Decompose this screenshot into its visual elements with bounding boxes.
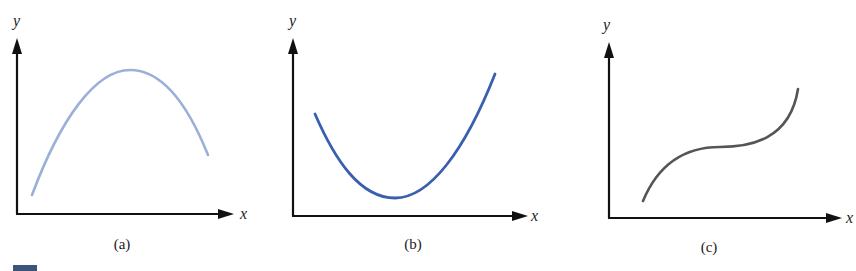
y-axis-arrow-icon <box>12 38 22 54</box>
panel-c: x y (c) <box>601 16 853 256</box>
y-axis-arrow-icon <box>288 38 298 54</box>
x-axis-label: x <box>845 209 853 226</box>
x-axis-arrow-icon <box>512 211 528 221</box>
y-axis-label: y <box>601 16 611 34</box>
x-axis-arrow-icon <box>826 213 842 223</box>
curve-inflection <box>643 89 798 201</box>
x-axis-arrow-icon <box>218 209 234 219</box>
caption-b: (b) <box>404 236 422 253</box>
curve-maximum <box>32 70 208 195</box>
caption-a: (a) <box>114 236 131 253</box>
curve-minimum <box>315 74 495 198</box>
y-axis-label: y <box>287 12 297 30</box>
panel-a: x y (a) <box>11 12 247 253</box>
figure: x y (a) x y (b) x y (c) <box>0 0 856 271</box>
caption-c: (c) <box>701 239 718 256</box>
y-axis-arrow-icon <box>604 42 614 58</box>
corner-mark <box>13 265 37 271</box>
y-axis-label: y <box>11 12 21 30</box>
panel-b: x y (b) <box>287 12 538 253</box>
x-axis-label: x <box>530 207 538 224</box>
x-axis-label: x <box>239 205 247 222</box>
